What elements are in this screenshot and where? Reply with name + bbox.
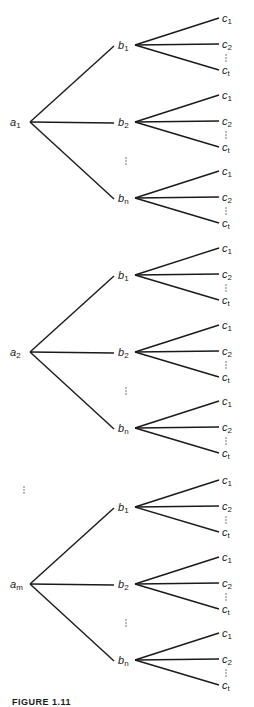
edge-b-c (135, 507, 219, 532)
edge-b-c (135, 18, 219, 45)
node-c2: c2 (222, 268, 233, 282)
edge-b-c (135, 95, 219, 122)
node-bn: bn (118, 192, 129, 206)
node-ct: ct (222, 526, 231, 540)
edge-b-c (135, 171, 219, 198)
ellipsis-c-icon (225, 287, 226, 288)
ellipsis-b-icon (125, 393, 126, 394)
node-c2: c2 (222, 500, 233, 514)
node-b2: b2 (118, 346, 129, 360)
node-bn: bn (118, 422, 129, 436)
node-am: am (10, 578, 23, 592)
ellipsis-c-icon (225, 443, 226, 444)
ellipsis-b-icon (125, 160, 126, 161)
node-c1: c1 (222, 474, 233, 488)
ellipsis-b-icon (125, 390, 126, 391)
ellipsis-b-icon (125, 625, 126, 626)
ellipsis-c-icon (225, 669, 226, 670)
node-c1: c1 (222, 627, 233, 641)
edge-a-b (30, 352, 114, 353)
node-c1: c1 (222, 89, 233, 103)
edge-b-c (135, 198, 219, 223)
ellipsis-c-icon (225, 437, 226, 438)
edge-a-b (30, 276, 114, 352)
edge-b-c (135, 197, 219, 198)
node-ct: ct (222, 64, 231, 78)
node-ct: ct (222, 371, 231, 385)
node-c1: c1 (222, 395, 233, 409)
figure-caption: FIGURE 1.11 (12, 697, 71, 707)
ellipsis-c-icon (225, 210, 226, 211)
ellipsis-c-icon (225, 522, 226, 523)
node-b1: b1 (118, 501, 129, 515)
ellipsis-c-icon (225, 131, 226, 132)
ellipsis-b-icon (125, 622, 126, 623)
edge-b-c (135, 584, 219, 609)
ellipsis-c-icon (225, 290, 226, 291)
ellipsis-a-icon (23, 486, 24, 487)
edge-b-c (135, 583, 219, 584)
ellipsis-c-icon (225, 361, 226, 362)
ellipsis-c-icon (225, 60, 226, 61)
ellipsis-c-icon (225, 54, 226, 55)
ellipsis-c-icon (225, 367, 226, 368)
node-c2: c2 (222, 345, 233, 359)
ellipsis-c-icon (225, 57, 226, 58)
edge-b-c (135, 557, 219, 584)
edge-b-c (135, 401, 219, 428)
ellipsis-c-icon (225, 516, 226, 517)
edge-a-b (30, 46, 114, 122)
edge-b-c (135, 660, 219, 685)
node-c2: c2 (222, 421, 233, 435)
ellipsis-c-icon (225, 134, 226, 135)
edge-a-b (30, 584, 114, 585)
node-bn: bn (118, 654, 129, 668)
node-b1: b1 (118, 39, 129, 53)
node-ct: ct (222, 294, 231, 308)
node-ct: ct (222, 679, 231, 693)
node-a1: a1 (10, 116, 21, 130)
edge-b-c (135, 325, 219, 352)
edge-b-c (135, 122, 219, 147)
node-c2: c2 (222, 577, 233, 591)
edge-a-b (30, 584, 114, 661)
node-ct: ct (222, 217, 231, 231)
node-a2: a2 (10, 346, 21, 360)
node-c1: c1 (222, 12, 233, 26)
ellipsis-c-icon (225, 599, 226, 600)
ellipsis-c-icon (225, 672, 226, 673)
node-c1: c1 (222, 551, 233, 565)
ellipsis-c-icon (225, 213, 226, 214)
edge-b-c (135, 480, 219, 507)
edge-b-c (135, 659, 219, 660)
node-ct: ct (222, 447, 231, 461)
ellipsis-c-icon (225, 596, 226, 597)
ellipsis-c-icon (225, 519, 226, 520)
node-c2: c2 (222, 653, 233, 667)
edge-a-b (30, 122, 114, 123)
node-c2: c2 (222, 191, 233, 205)
ellipsis-c-icon (225, 364, 226, 365)
edge-b-c (135, 633, 219, 660)
ellipsis-b-icon (125, 157, 126, 158)
ellipsis-b-icon (125, 163, 126, 164)
ellipsis-c-icon (225, 137, 226, 138)
ellipsis-c-icon (225, 593, 226, 594)
edge-a-b (30, 508, 114, 584)
node-ct: ct (222, 603, 231, 617)
ellipsis-a-icon (23, 489, 24, 490)
edge-b-c (135, 351, 219, 352)
ellipsis-b-icon (125, 619, 126, 620)
edge-b-c (135, 275, 219, 300)
edge-b-c (135, 274, 219, 275)
ellipsis-c-icon (225, 675, 226, 676)
edge-b-c (135, 45, 219, 70)
ellipsis-c-icon (225, 207, 226, 208)
node-b1: b1 (118, 269, 129, 283)
node-c1: c1 (222, 319, 233, 333)
ellipsis-a-icon (23, 492, 24, 493)
edge-a-b (30, 122, 114, 199)
edge-b-c (135, 121, 219, 122)
edge-b-c (135, 352, 219, 377)
node-c1: c1 (222, 165, 233, 179)
